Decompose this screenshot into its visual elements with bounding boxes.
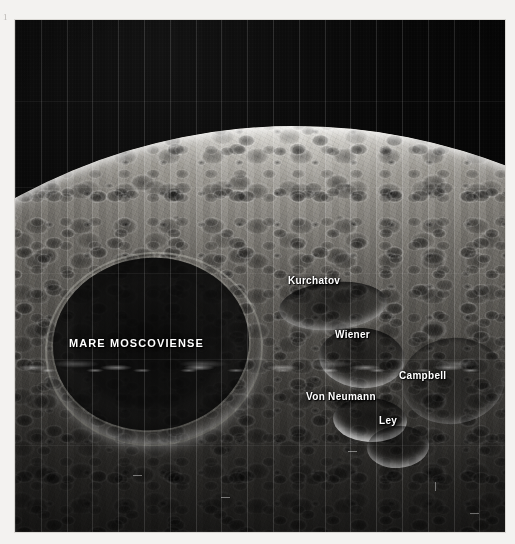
feature-label-ley: Ley bbox=[379, 416, 397, 426]
lunar-photograph: MARE MOSCOVIENSE Kurchatov Wiener Campbe… bbox=[15, 20, 505, 532]
plate-number: 1 bbox=[3, 13, 8, 22]
feature-label-campbell: Campbell bbox=[399, 371, 446, 381]
highland-rim-highlights bbox=[15, 350, 505, 470]
feature-label-kurchatov: Kurchatov bbox=[288, 276, 340, 286]
feature-label-von-neumann: Von Neumann bbox=[306, 392, 376, 402]
page-root: 1 MARE MOSCOVIENSE Kurchatov bbox=[0, 0, 515, 544]
feature-label-wiener: Wiener bbox=[335, 330, 370, 340]
feature-label-mare-moscoviense: MARE MOSCOVIENSE bbox=[69, 338, 204, 349]
